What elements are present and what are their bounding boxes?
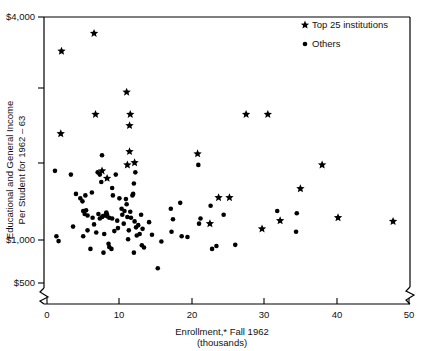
data-point-dot (80, 199, 85, 204)
data-point-dot (142, 245, 147, 250)
data-point-dot (155, 266, 160, 271)
data-point-dot (94, 230, 99, 235)
data-point-dot (128, 209, 133, 214)
data-point-star (264, 110, 272, 118)
chart-legend: Top 25 institutions Others (301, 19, 388, 49)
scatter-plot-figure: Educational and General Income Per Stude… (0, 0, 424, 351)
data-point-dot (147, 220, 152, 225)
data-point-dot (150, 233, 155, 238)
data-point-dot (185, 235, 190, 240)
data-point-dot (122, 209, 127, 214)
data-point-star (57, 47, 65, 55)
y-axis-title-line1: Educational and General Income (4, 101, 15, 239)
data-point-star (242, 110, 250, 118)
data-point-star (57, 129, 65, 137)
x-axis-title: Enrollment,* Fall 1962 (thousands) (175, 326, 268, 348)
data-point-dot (133, 170, 138, 175)
data-point-dot (197, 221, 202, 226)
data-points-layer (53, 29, 398, 271)
y-axis-ticks (38, 17, 44, 283)
axes-frame (40, 17, 414, 304)
data-point-dot (56, 239, 61, 244)
data-point-dot (129, 215, 134, 220)
data-point-star (225, 193, 233, 201)
data-point-dot (233, 243, 238, 248)
data-point-dot (81, 234, 86, 239)
data-point-star (258, 224, 266, 232)
x-tick-label-20: 20 (187, 309, 198, 320)
y-axis-title: Educational and General Income Per Stude… (4, 101, 27, 239)
data-point-star (389, 217, 397, 225)
data-point-dot (131, 192, 136, 197)
x-axis-ticks (47, 298, 409, 304)
data-point-dot (159, 239, 164, 244)
y-tick-label-500: $500 (14, 277, 35, 288)
data-point-dot (90, 190, 95, 195)
x-tick-label-0: 0 (44, 309, 49, 320)
data-point-dot (54, 234, 59, 239)
data-point-dot (98, 172, 103, 177)
x-axis-tick-labels: 0 10 20 30 40 50 (44, 309, 414, 320)
x-tick-label-50: 50 (404, 309, 415, 320)
chart-canvas: Educational and General Income Per Stude… (0, 0, 424, 351)
data-point-dot (139, 212, 144, 217)
data-point-dot (171, 217, 176, 222)
data-point-dot (275, 209, 280, 214)
data-point-star (122, 88, 130, 96)
data-point-star (125, 121, 133, 129)
legend-label-others: Others (312, 38, 341, 49)
data-point-star (318, 161, 326, 169)
data-point-dot (126, 237, 131, 242)
data-point-dot (179, 234, 184, 239)
y-tick-label-4000: $4,000 (6, 11, 35, 22)
x-axis-title-sub: (thousands) (197, 337, 247, 348)
data-point-dot (92, 222, 97, 227)
data-point-dot (294, 211, 299, 216)
data-point-dot (109, 247, 114, 252)
data-point-star (123, 161, 131, 169)
data-point-dot (112, 229, 117, 234)
data-point-star (206, 219, 214, 227)
data-point-star (103, 174, 111, 182)
data-point-dot (102, 232, 107, 237)
data-point-dot (140, 227, 145, 232)
data-point-dot (83, 193, 88, 198)
data-point-dot (96, 212, 101, 217)
data-point-dot (100, 215, 105, 220)
data-point-dot (127, 228, 132, 233)
y-tick-label-1000: $1,000 (6, 234, 35, 245)
data-point-dot (115, 218, 120, 223)
data-point-star (296, 184, 304, 192)
dot-marker-icon (303, 42, 308, 47)
data-point-star (125, 147, 133, 155)
legend-label-top25: Top 25 institutions (312, 19, 388, 30)
data-point-dot (84, 208, 89, 213)
data-point-star (126, 110, 134, 118)
data-point-dot (90, 215, 95, 220)
data-point-dot (111, 193, 116, 198)
data-point-dot (124, 202, 129, 207)
data-point-dot (117, 196, 122, 201)
data-point-dot (69, 172, 74, 177)
star-marker-icon (301, 21, 309, 29)
x-axis-break-icon (406, 287, 414, 304)
data-point-dot (113, 172, 118, 177)
data-point-dot (137, 232, 142, 237)
data-point-dot (85, 213, 90, 218)
x-tick-label-30: 30 (259, 309, 270, 320)
data-point-dot (101, 250, 106, 255)
data-point-dot (99, 180, 104, 185)
data-point-dot (169, 230, 174, 235)
data-point-dot (124, 197, 129, 202)
data-point-star (276, 216, 284, 224)
data-point-star (193, 149, 201, 157)
data-point-dot (169, 206, 174, 211)
data-point-dot (132, 250, 137, 255)
data-point-dot (198, 216, 203, 221)
data-point-star (334, 213, 342, 221)
data-point-dot (132, 219, 137, 224)
data-point-dot (116, 226, 121, 231)
data-point-dot (100, 153, 105, 158)
data-point-star (90, 29, 98, 37)
x-axis-title-main: Enrollment,* Fall 1962 (175, 326, 268, 337)
